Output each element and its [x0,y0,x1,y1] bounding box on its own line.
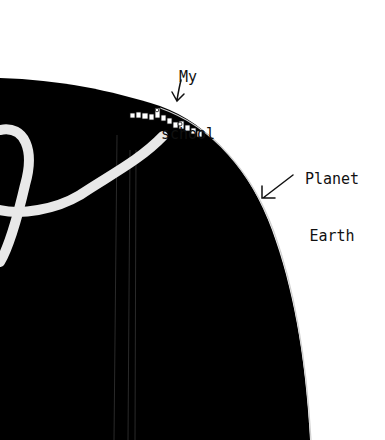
planet-earth-label-line1: Planet [292,170,372,189]
my-school-label: My school [148,30,228,182]
my-school-label-line1: My [148,68,228,87]
my-school-label-line2: school [148,125,228,144]
arrow-to-earth-icon [262,175,293,198]
illustration-canvas: My school Planet Earth [0,0,385,440]
planet-earth-label: Planet Earth [292,132,372,284]
planet-earth-label-line2: Earth [292,227,372,246]
